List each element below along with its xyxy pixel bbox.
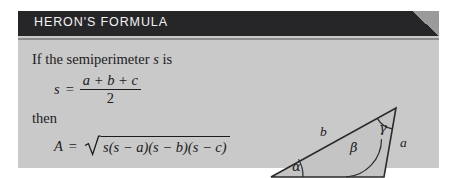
fraction-denominator: 2 xyxy=(104,90,117,106)
semiperimeter-intro-text: If the semiperimeter s is xyxy=(32,51,172,68)
then-label: then xyxy=(32,110,57,127)
angle-label-gamma: γ xyxy=(379,120,387,135)
angle-label-alpha: α xyxy=(292,159,301,174)
corner-fold-decoration xyxy=(412,11,439,36)
fraction-numerator: a + b + c xyxy=(80,73,141,89)
side-label-a: a xyxy=(400,135,407,151)
fraction: a + b + c 2 xyxy=(80,73,141,106)
intro-suffix: is xyxy=(159,51,172,67)
equation-a-equals: = xyxy=(69,132,77,155)
radical-group: s(s − a)(s − b)(s − c) xyxy=(84,132,230,156)
intro-prefix: If the semiperimeter xyxy=(32,51,153,67)
equation-a-lhs: A xyxy=(54,132,63,155)
page-title: HERON'S FORMULA xyxy=(34,15,168,29)
figure-screenshot: HERON'S FORMULA If the semiperimeter s i… xyxy=(0,0,457,178)
triangle-svg xyxy=(250,88,450,178)
radicand-expression: s(s − a)(s − b)(s − c) xyxy=(101,136,230,156)
semiperimeter-equation: s = a + b + c 2 xyxy=(54,73,141,106)
side-label-b: b xyxy=(320,124,327,140)
equation-s-equals: = xyxy=(66,81,74,98)
area-equation: A = s(s − a)(s − b)(s − c) xyxy=(54,132,230,156)
equation-s-lhs: s xyxy=(54,81,60,98)
radical-sign-icon xyxy=(84,132,101,156)
panel-header-bar: HERON'S FORMULA xyxy=(18,11,439,36)
labelled-triangle-figure: α β γ b a c xyxy=(250,88,450,178)
panel-body: If the semiperimeter s is s = a + b + c … xyxy=(18,40,439,168)
angle-label-beta: β xyxy=(350,140,358,155)
